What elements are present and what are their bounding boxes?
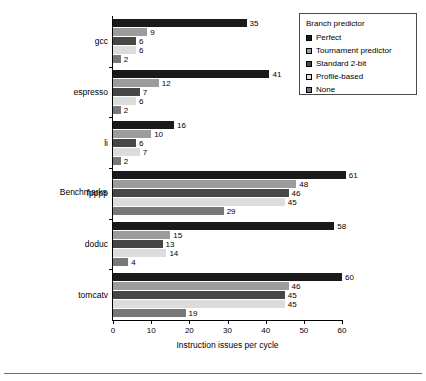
- bar-value-label: 10: [154, 130, 163, 139]
- chart-legend: Branch predictor PerfectTournament predi…: [299, 13, 417, 95]
- bar-value-label: 15: [173, 231, 182, 240]
- bar: [113, 171, 346, 179]
- x-axis-tick: [151, 320, 152, 324]
- y-axis-tick: [109, 168, 113, 169]
- x-axis-tick-label: 20: [177, 326, 201, 336]
- x-axis-tick-label: 30: [216, 326, 240, 336]
- bar: [113, 309, 186, 317]
- bar-value-label: 46: [292, 189, 301, 198]
- bar-value-label: 48: [299, 180, 308, 189]
- bar: [113, 55, 121, 63]
- figure-bottom-rule: [4, 373, 422, 374]
- bar: [113, 148, 140, 156]
- bar: [113, 19, 247, 27]
- bar: [113, 198, 285, 206]
- bar-value-label: 6: [139, 97, 143, 106]
- bar: [113, 106, 121, 114]
- legend-item: Profile-based: [306, 70, 416, 83]
- bar: [113, 207, 224, 215]
- x-axis-tick: [189, 320, 190, 324]
- bar: [113, 28, 147, 36]
- bar: [113, 37, 136, 45]
- bar-value-label: 45: [288, 300, 297, 309]
- y-axis-tick: [109, 219, 113, 220]
- bar: [113, 46, 136, 54]
- bar: [113, 88, 140, 96]
- bar-value-label: 29: [227, 207, 236, 216]
- category-label-doduc: doduc: [16, 239, 108, 249]
- bar-value-label: 60: [345, 273, 354, 282]
- bar-value-label: 6: [139, 46, 143, 55]
- bar-value-label: 2: [124, 55, 128, 64]
- legend-item-label: Tournament predictor: [316, 45, 392, 56]
- x-axis-tick: [304, 320, 305, 324]
- bar: [113, 97, 136, 105]
- bar-value-label: 45: [288, 198, 297, 207]
- legend-item-label: Standard 2-bit: [316, 58, 366, 69]
- bar-value-label: 12: [162, 79, 171, 88]
- bar: [113, 231, 170, 239]
- legend-item: Standard 2-bit: [306, 57, 416, 70]
- bar-value-label: 41: [272, 70, 281, 79]
- legend-swatch-icon: [306, 35, 312, 41]
- bar: [113, 240, 163, 248]
- legend-item: None: [306, 83, 416, 96]
- x-axis-tick: [266, 320, 267, 324]
- bar: [113, 79, 159, 87]
- legend-item-label: None: [316, 84, 335, 95]
- legend-title: Branch predictor: [306, 18, 416, 29]
- bar-value-label: 46: [292, 282, 301, 291]
- x-axis-tick-label: 0: [101, 326, 125, 336]
- legend-swatch-icon: [306, 87, 312, 93]
- x-axis-tick: [113, 320, 114, 324]
- category-label-espresso: espresso: [16, 87, 108, 97]
- bar-value-label: 13: [166, 240, 175, 249]
- category-label-tomcatv: tomcatv: [16, 290, 108, 300]
- bar: [113, 258, 128, 266]
- bar-value-label: 9: [150, 28, 154, 37]
- bar-value-label: 6: [139, 37, 143, 46]
- legend-swatch-icon: [306, 74, 312, 80]
- x-axis-tick-label: 60: [330, 326, 354, 336]
- bar-value-label: 2: [124, 157, 128, 166]
- legend-item: Tournament predictor: [306, 44, 416, 57]
- bar-value-label: 45: [288, 291, 297, 300]
- bar-value-label: 2: [124, 106, 128, 115]
- bar-value-label: 7: [143, 148, 147, 157]
- bar-value-label: 6: [139, 139, 143, 148]
- y-axis-tick: [109, 67, 113, 68]
- bar-value-label: 61: [349, 171, 358, 180]
- category-label-li: li: [16, 138, 108, 148]
- bar: [113, 291, 285, 299]
- y-axis-tick: [109, 117, 113, 118]
- bar: [113, 139, 136, 147]
- bar-value-label: 19: [189, 309, 198, 318]
- legend-item: Perfect: [306, 31, 416, 44]
- bar: [113, 249, 166, 257]
- category-label-gcc: gcc: [16, 36, 108, 46]
- x-axis-tick-label: 40: [254, 326, 278, 336]
- bar: [113, 222, 334, 230]
- bar: [113, 70, 269, 78]
- bar-value-label: 4: [131, 258, 135, 267]
- bar-value-label: 7: [143, 88, 147, 97]
- bar: [113, 130, 151, 138]
- bar: [113, 157, 121, 165]
- x-axis-tick: [228, 320, 229, 324]
- bar: [113, 273, 342, 281]
- legend-swatch-icon: [306, 48, 312, 54]
- bar: [113, 180, 296, 188]
- y-axis-label: Benchmarks: [15, 187, 107, 197]
- y-axis-tick: [109, 269, 113, 270]
- x-axis-tick-label: 10: [139, 326, 163, 336]
- x-axis-tick: [342, 320, 343, 324]
- bar-value-label: 35: [250, 19, 259, 28]
- bar: [113, 300, 285, 308]
- x-axis-label: Instruction issues per cycle: [113, 340, 342, 350]
- bar: [113, 189, 289, 197]
- bar-value-label: 14: [169, 249, 178, 258]
- x-axis-tick-label: 50: [292, 326, 316, 336]
- bar: [113, 121, 174, 129]
- legend-item-label: Profile-based: [316, 71, 363, 82]
- legend-swatch-icon: [306, 61, 312, 67]
